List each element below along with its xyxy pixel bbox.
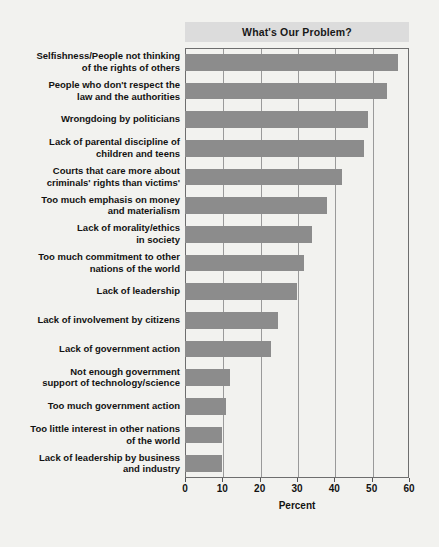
x-tick-mark bbox=[260, 478, 261, 482]
category-label: Lack of involvement by citizens bbox=[2, 314, 180, 326]
x-tick-label: 20 bbox=[254, 483, 265, 494]
category-label: Too much government action bbox=[2, 400, 180, 412]
x-tick-label: 40 bbox=[329, 483, 340, 494]
category-label: Not enough government support of technol… bbox=[2, 366, 180, 389]
x-axis: 0102030405060 bbox=[185, 478, 409, 518]
x-tick-mark bbox=[372, 478, 373, 482]
bar bbox=[185, 341, 271, 358]
x-axis-title: Percent bbox=[185, 500, 409, 511]
bars-layer bbox=[185, 48, 409, 478]
bar bbox=[185, 283, 297, 300]
bar bbox=[185, 197, 327, 214]
bar bbox=[185, 398, 226, 415]
bar bbox=[185, 140, 364, 157]
bar bbox=[185, 54, 398, 71]
category-label: Too much emphasis on money and materiali… bbox=[2, 194, 180, 217]
category-labels: Selfishness/People not thinking of the r… bbox=[0, 48, 180, 478]
bar bbox=[185, 226, 312, 243]
category-label: Too much commitment to other nations of … bbox=[2, 251, 180, 274]
category-label: Lack of government action bbox=[2, 343, 180, 355]
category-label: Too little interest in other nations of … bbox=[2, 423, 180, 446]
bar bbox=[185, 455, 222, 472]
bar bbox=[185, 83, 387, 100]
x-tick-label: 30 bbox=[291, 483, 302, 494]
category-label: People who don't respect the law and the… bbox=[2, 79, 180, 102]
x-tick-label: 60 bbox=[403, 483, 414, 494]
bar bbox=[185, 369, 230, 386]
category-label: Lack of morality/ethics in society bbox=[2, 222, 180, 245]
x-tick-label: 0 bbox=[182, 483, 188, 494]
x-tick-mark bbox=[409, 478, 410, 482]
bar bbox=[185, 312, 278, 329]
bar bbox=[185, 427, 222, 444]
chart-title-banner: What's Our Problem? bbox=[185, 22, 409, 42]
category-label: Lack of leadership by business and indus… bbox=[2, 452, 180, 475]
category-label: Lack of parental discipline of children … bbox=[2, 136, 180, 159]
category-label: Courts that care more about criminals' r… bbox=[2, 165, 180, 188]
x-tick-label: 10 bbox=[217, 483, 228, 494]
x-tick-label: 50 bbox=[366, 483, 377, 494]
x-tick-mark bbox=[185, 478, 186, 482]
x-tick-mark bbox=[334, 478, 335, 482]
bar-chart: What's Our Problem? Selfishness/People n… bbox=[0, 0, 439, 547]
x-tick-mark bbox=[297, 478, 298, 482]
bar bbox=[185, 111, 368, 128]
category-label: Lack of leadership bbox=[2, 285, 180, 297]
category-label: Selfishness/People not thinking of the r… bbox=[2, 50, 180, 73]
x-tick-mark bbox=[222, 478, 223, 482]
chart-title: What's Our Problem? bbox=[242, 26, 352, 38]
category-label: Wrongdoing by politicians bbox=[2, 113, 180, 125]
bar bbox=[185, 169, 342, 186]
bar bbox=[185, 255, 304, 272]
